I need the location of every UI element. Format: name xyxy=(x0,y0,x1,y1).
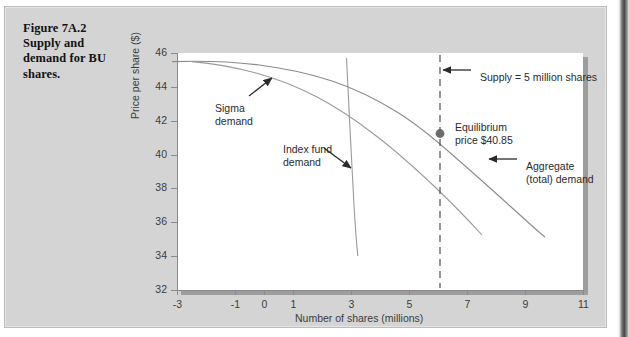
x-tick-neg1: -1 xyxy=(235,290,236,295)
y-axis-line xyxy=(177,53,178,291)
x-tick-0: 0 xyxy=(264,290,265,295)
x-tick-label-9: 9 xyxy=(523,298,529,310)
annotation-index-line1: Index fund xyxy=(283,143,332,155)
x-axis-line xyxy=(177,290,584,291)
y-tick-label-46: 46 xyxy=(155,46,167,58)
x-tick-label-neg1: -1 xyxy=(231,298,240,310)
y-tick-label-38: 38 xyxy=(155,181,167,193)
annotation-equilibrium-line1: Equilibrium xyxy=(455,121,507,133)
caption-line-4: shares. xyxy=(23,67,138,82)
caption-line-2: Supply and xyxy=(23,36,138,51)
annotation-sigma-line1: Sigma xyxy=(215,102,245,114)
y-tick-label-40: 40 xyxy=(155,148,167,160)
x-tick-label-0: 0 xyxy=(262,298,268,310)
annotation-aggregate-demand: Aggregate (total) demand xyxy=(526,160,594,186)
page-edge-shading xyxy=(617,0,629,337)
y-tick-40: 40 xyxy=(171,155,177,156)
x-axis-label: Number of shares (millions) xyxy=(295,312,423,324)
caption-line-3: demand for BU xyxy=(23,51,138,66)
annotation-index-line2: demand xyxy=(283,156,321,168)
x-tick-3: 3 xyxy=(351,290,352,295)
x-tick-label-neg3: -3 xyxy=(173,298,182,310)
x-tick-9: 9 xyxy=(525,290,526,295)
y-tick-46: 46 xyxy=(171,53,177,54)
x-tick-7: 7 xyxy=(467,290,468,295)
x-tick-label-5: 5 xyxy=(407,298,413,310)
annotation-supply-line1: Supply = 5 million shares xyxy=(480,71,597,83)
figure-caption: Figure 7A.2 Supply and demand for BU sha… xyxy=(23,21,138,82)
y-tick-label-34: 34 xyxy=(155,249,167,261)
annotation-index-fund-demand: Index fund demand xyxy=(283,143,332,169)
y-tick-42: 42 xyxy=(171,121,177,122)
annotation-sigma-demand: Sigma demand xyxy=(215,102,253,128)
annotation-supply: Supply = 5 million shares xyxy=(480,71,597,84)
x-tick-neg3: -3 xyxy=(177,290,178,295)
y-tick-label-36: 36 xyxy=(155,215,167,227)
annotation-equilibrium: Equilibrium price $40.85 xyxy=(455,121,513,147)
annotation-sigma-line2: demand xyxy=(215,115,253,127)
plot-area xyxy=(177,53,583,290)
y-tick-34: 34 xyxy=(171,256,177,257)
y-tick-label-32: 32 xyxy=(155,283,167,295)
y-tick-44: 44 xyxy=(171,87,177,88)
figure-panel: Figure 7A.2 Supply and demand for BU sha… xyxy=(4,6,607,328)
y-axis-label: Price per share ($) xyxy=(129,32,141,119)
annotation-equilibrium-line2: price $40.85 xyxy=(455,134,513,146)
y-tick-38: 38 xyxy=(171,188,177,189)
x-tick-11: 11 xyxy=(583,290,584,295)
y-tick-label-42: 42 xyxy=(155,114,167,126)
y-tick-label-44: 44 xyxy=(155,80,167,92)
caption-line-1: Figure 7A.2 xyxy=(23,21,138,36)
annotation-aggregate-line2: (total) demand xyxy=(526,173,594,185)
x-tick-label-1: 1 xyxy=(291,298,297,310)
x-tick-label-7: 7 xyxy=(465,298,471,310)
x-tick-label-3: 3 xyxy=(349,298,355,310)
x-tick-1: 1 xyxy=(293,290,294,295)
annotation-aggregate-line1: Aggregate xyxy=(526,160,574,172)
x-tick-5: 5 xyxy=(409,290,410,295)
x-tick-label-11: 11 xyxy=(578,298,589,310)
y-tick-36: 36 xyxy=(171,222,177,223)
